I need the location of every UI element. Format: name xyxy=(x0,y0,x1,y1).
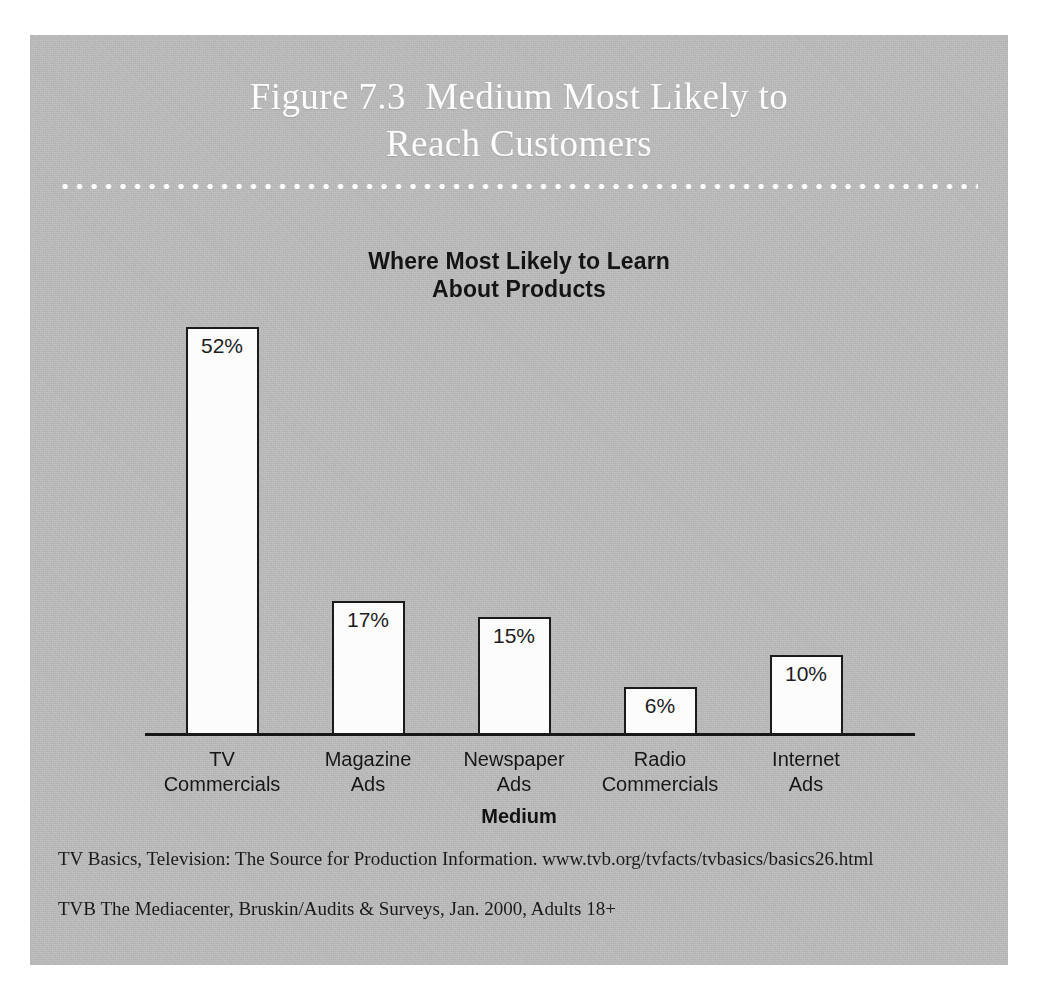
category-label-internet-ads: Internet Ads xyxy=(721,747,891,797)
category-label-line-1: Radio xyxy=(575,747,745,772)
category-label-line-1: TV xyxy=(137,747,307,772)
bar-value-newspaper-ads: 15% xyxy=(480,624,549,648)
category-label-line-1: Magazine xyxy=(283,747,453,772)
category-label-magazine-ads: Magazine Ads xyxy=(283,747,453,797)
bar-newspaper-ads[interactable]: 15% xyxy=(478,617,551,735)
category-label-line-1: Internet xyxy=(721,747,891,772)
bar-slot-radio-commercials: 6% xyxy=(587,687,733,735)
bar-radio-commercials[interactable]: 6% xyxy=(624,687,697,735)
category-label-line-2: Ads xyxy=(283,772,453,797)
x-axis-title: Medium xyxy=(30,805,1008,828)
source-note-2: TVB The Mediacenter, Bruskin/Audits & Su… xyxy=(58,897,616,921)
category-label-radio-commercials: Radio Commercials xyxy=(575,747,745,797)
category-label-line-2: Commercials xyxy=(575,772,745,797)
bar-slot-tv-commercials: 52% xyxy=(149,327,295,735)
bar-slot-magazine-ads: 17% xyxy=(295,601,441,735)
bar-value-magazine-ads: 17% xyxy=(334,608,403,632)
bar-tv-commercials[interactable]: 52% xyxy=(186,327,259,735)
bar-slot-newspaper-ads: 15% xyxy=(441,617,587,735)
source-note-1: TV Basics, Television: The Source for Pr… xyxy=(58,847,874,871)
category-label-line-2: Commercials xyxy=(137,772,307,797)
bar-value-internet-ads: 10% xyxy=(772,662,841,686)
page-canvas: Figure 7.3 Medium Most Likely to Reach C… xyxy=(0,0,1046,992)
category-label-tv-commercials: TV Commercials xyxy=(137,747,307,797)
category-label-line-1: Newspaper xyxy=(429,747,599,772)
category-label-newspaper-ads: Newspaper Ads xyxy=(429,747,599,797)
bar-value-radio-commercials: 6% xyxy=(626,694,695,718)
bar-chart-plot: 52% 17% 15% 6% 10% xyxy=(30,35,1008,965)
category-label-line-2: Ads xyxy=(721,772,891,797)
bar-internet-ads[interactable]: 10% xyxy=(770,655,843,735)
figure-panel: Figure 7.3 Medium Most Likely to Reach C… xyxy=(30,35,1008,965)
bar-value-tv-commercials: 52% xyxy=(188,334,257,358)
bar-magazine-ads[interactable]: 17% xyxy=(332,601,405,735)
bar-slot-internet-ads: 10% xyxy=(733,655,879,735)
category-label-line-2: Ads xyxy=(429,772,599,797)
